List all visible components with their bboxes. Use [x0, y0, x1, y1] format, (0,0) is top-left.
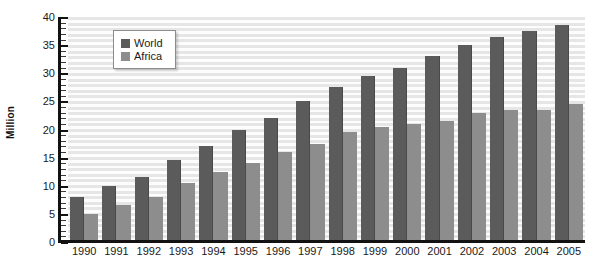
x-axis-tick-label: 2005: [553, 245, 585, 265]
y-axis-major-tick: [61, 130, 68, 132]
bar-africa-2005[interactable]: [569, 104, 583, 242]
x-axis-tick-label: 1992: [133, 245, 165, 265]
bar-group: [294, 17, 326, 242]
y-axis-minor-tick: [61, 203, 66, 204]
bar-group: [230, 17, 262, 242]
legend-item-world[interactable]: World: [121, 37, 163, 49]
x-axis-tick-label: 1994: [197, 245, 229, 265]
bar-group: [456, 17, 488, 242]
bar-world-1992[interactable]: [135, 177, 149, 242]
y-axis-major-tick: [61, 214, 68, 216]
bar-africa-1999[interactable]: [375, 127, 389, 242]
bar-world-1998[interactable]: [329, 87, 343, 242]
y-axis-minor-tick: [61, 68, 66, 69]
bar-world-2001[interactable]: [425, 56, 439, 242]
x-axis-tick-label: 2000: [391, 245, 423, 265]
y-axis-minor-tick: [61, 113, 66, 114]
y-axis-minor-tick: [61, 152, 66, 153]
bar-world-2000[interactable]: [393, 68, 407, 242]
bar-group: [197, 17, 229, 242]
bar-group: [68, 17, 100, 242]
y-axis-ticks: [61, 17, 68, 242]
bar-world-1999[interactable]: [361, 76, 375, 242]
x-axis-tick-label: 2003: [488, 245, 520, 265]
bar-group: [553, 17, 585, 242]
bar-africa-1998[interactable]: [343, 132, 357, 242]
bar-world-1997[interactable]: [296, 101, 310, 242]
bar-world-2005[interactable]: [555, 25, 569, 242]
y-axis-tick-label: 10: [22, 180, 55, 192]
x-axis-tick-label: 2001: [423, 245, 455, 265]
bar-world-1993[interactable]: [167, 160, 181, 242]
bar-africa-1997[interactable]: [310, 144, 324, 242]
legend-item-africa[interactable]: Africa: [121, 50, 163, 62]
bar-world-1994[interactable]: [199, 146, 213, 242]
y-axis-tick-labels: 4035302520151050: [22, 0, 55, 245]
bar-world-1990[interactable]: [70, 197, 84, 242]
bar-group: [391, 17, 423, 242]
bar-group: [488, 17, 520, 242]
bar-chart: Million 4035302520151050 199019911992199…: [0, 0, 596, 269]
y-axis-minor-tick: [61, 124, 66, 125]
y-axis-tick-label: 30: [22, 67, 55, 79]
chart-legend: WorldAfrica: [113, 30, 176, 69]
bar-africa-1994[interactable]: [213, 172, 227, 242]
y-axis-minor-tick: [61, 79, 66, 80]
bar-group: [262, 17, 294, 242]
bar-africa-1990[interactable]: [84, 214, 98, 242]
y-axis-minor-tick: [61, 220, 66, 221]
legend-swatch-icon: [121, 52, 130, 61]
bar-africa-2000[interactable]: [407, 124, 421, 242]
y-axis-minor-tick: [61, 146, 66, 147]
bar-africa-1991[interactable]: [116, 205, 130, 242]
y-axis-minor-tick: [61, 28, 66, 29]
y-axis-major-tick: [61, 101, 68, 103]
x-axis-tick-label: 1999: [359, 245, 391, 265]
y-axis-tick-label: 40: [22, 11, 55, 23]
bar-africa-1996[interactable]: [278, 152, 292, 242]
y-axis-major-tick: [61, 17, 68, 19]
bar-world-2002[interactable]: [458, 45, 472, 242]
bar-world-2003[interactable]: [490, 37, 504, 242]
y-axis-major-tick: [61, 73, 68, 75]
y-axis-tick-label: 25: [22, 95, 55, 107]
y-axis-tick-label: 0: [22, 236, 55, 248]
y-axis-minor-tick: [61, 163, 66, 164]
bar-group: [327, 17, 359, 242]
bar-world-1995[interactable]: [232, 130, 246, 243]
bar-world-1996[interactable]: [264, 118, 278, 242]
bar-world-2004[interactable]: [522, 31, 536, 242]
bar-africa-1993[interactable]: [181, 183, 195, 242]
y-axis-major-tick: [61, 45, 68, 47]
bar-africa-2004[interactable]: [537, 110, 551, 242]
bar-africa-2003[interactable]: [504, 110, 518, 242]
bar-africa-1995[interactable]: [246, 163, 260, 242]
y-axis-minor-tick: [61, 23, 66, 24]
bar-world-1991[interactable]: [102, 186, 116, 242]
bar-africa-1992[interactable]: [149, 197, 163, 242]
y-axis-minor-tick: [61, 169, 66, 170]
bar-africa-2001[interactable]: [440, 121, 454, 242]
y-axis-minor-tick: [61, 231, 66, 232]
y-axis-tick-label: 15: [22, 152, 55, 164]
y-axis-tick-label: 20: [22, 124, 55, 136]
y-axis-minor-tick: [61, 236, 66, 237]
x-axis-line: [58, 240, 585, 243]
y-axis-minor-tick: [61, 107, 66, 108]
x-axis-tick-labels: 1990199119921993199419951996199719981999…: [68, 245, 585, 265]
y-axis-tick-label: 5: [22, 208, 55, 220]
y-axis-minor-tick: [61, 51, 66, 52]
bar-group: [520, 17, 552, 242]
y-axis-minor-tick: [61, 141, 66, 142]
y-axis-minor-tick: [61, 118, 66, 119]
y-axis-minor-tick: [61, 175, 66, 176]
y-axis-title-label: Million: [6, 106, 17, 139]
bar-africa-2002[interactable]: [472, 113, 486, 242]
y-axis-tick-label: 35: [22, 39, 55, 51]
x-axis-tick-label: 1993: [165, 245, 197, 265]
y-axis-minor-tick: [61, 208, 66, 209]
y-axis-minor-tick: [61, 96, 66, 97]
x-axis-tick-label: 1996: [262, 245, 294, 265]
y-axis-minor-tick: [61, 34, 66, 35]
y-axis-minor-tick: [61, 197, 66, 198]
